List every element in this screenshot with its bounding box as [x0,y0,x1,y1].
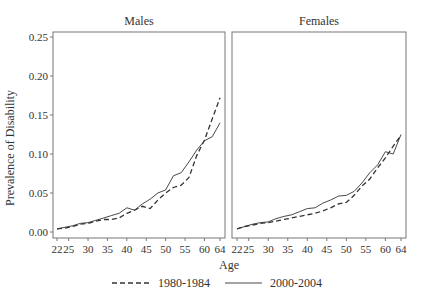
y-axis-label: Prevalence of Disability [3,90,17,206]
x-tick-label: 50 [160,243,172,255]
x-tick-label: 45 [141,243,153,255]
y-tick-label: 0.15 [29,109,49,121]
series-line-1980-1984 [237,135,401,229]
x-tick-label: 55 [180,243,192,255]
x-tick-label: 60 [199,243,211,255]
x-tick-label: 30 [83,243,95,255]
x-tick-label: 22 [232,243,243,255]
series-line-2000-2004 [57,123,220,229]
x-axis-label: Age [219,258,239,272]
series-line-2000-2004 [237,135,401,229]
legend-label-2000: 2000-2004 [270,276,322,290]
panel-females: Females22253035404550556064 [232,14,408,255]
legend: 1980-19842000-2004 [112,276,322,290]
x-tick-label: 64 [215,243,227,255]
x-tick-label: 35 [282,243,294,255]
y-tick-label: 0.10 [29,148,49,160]
x-tick-label: 40 [302,243,314,255]
panel-frame [232,32,406,238]
y-tick-label: 0.05 [29,187,49,199]
x-tick-label: 22 [52,243,63,255]
x-tick-label: 25 [63,243,75,255]
series-line-1980-1984 [57,98,220,229]
x-tick-label: 64 [396,243,408,255]
disability-prevalence-chart: Prevalence of DisabilityMales22253035404… [0,0,421,300]
x-tick-label: 55 [360,243,372,255]
y-tick-label: 0.20 [29,70,49,82]
x-tick-label: 35 [102,243,114,255]
panel-title: Females [299,14,339,28]
panel-males: Males222530354045505560640.000.050.100.1… [29,14,226,255]
x-tick-label: 30 [263,243,275,255]
y-tick-label: 0.00 [29,226,49,238]
x-tick-label: 25 [243,243,255,255]
x-tick-label: 40 [121,243,133,255]
x-tick-label: 50 [341,243,353,255]
panel-title: Males [124,14,154,28]
y-tick-label: 0.25 [29,31,49,43]
x-tick-label: 60 [380,243,392,255]
legend-label-1980: 1980-1984 [158,276,210,290]
x-tick-label: 45 [321,243,333,255]
